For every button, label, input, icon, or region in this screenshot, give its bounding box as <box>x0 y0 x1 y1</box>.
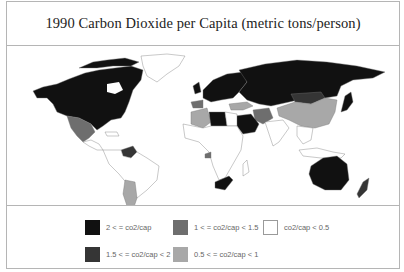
legend-item-0-5-to-1: 0.5 < = co2/cap < 1 <box>173 247 258 262</box>
region-north-america <box>33 66 143 130</box>
region-central-america <box>83 140 103 150</box>
region-caribbean <box>105 132 119 136</box>
region-new-zealand <box>357 178 369 198</box>
region-japan <box>341 92 353 112</box>
region-uk <box>193 82 201 94</box>
region-gabon <box>205 152 211 158</box>
legend-label: 0.5 < = co2/cap < 1 <box>194 250 258 259</box>
chart-frame: 1990 Carbon Dioxide per Capita (metric t… <box>6 1 400 269</box>
region-egypt <box>225 112 237 126</box>
world-map <box>7 46 399 206</box>
region-libya <box>209 112 227 126</box>
legend-swatch <box>173 220 188 235</box>
legend-item-2-plus: 2 < = co2/cap <box>85 220 151 235</box>
region-southeast-asia <box>297 126 313 144</box>
legend-item-under-0-5: co2/cap < 0.5 <box>263 220 329 235</box>
legend-label: co2/cap < 0.5 <box>284 223 329 232</box>
region-iberia <box>191 100 203 108</box>
legend-label: 2 < = co2/cap <box>106 223 151 232</box>
region-europe <box>203 72 247 102</box>
legend-item-1-5-to-2: 1.5 < = co2/cap < 2 <box>85 247 170 262</box>
region-algeria <box>191 108 211 128</box>
region-australia <box>309 156 349 190</box>
legend-swatch <box>85 247 100 262</box>
region-turkey <box>229 102 253 110</box>
legend-swatch <box>85 220 100 235</box>
legend-label: 1 < = co2/cap < 1.5 <box>194 223 258 232</box>
world-map-graphic <box>7 46 399 205</box>
region-indonesia <box>299 148 345 158</box>
legend-swatch <box>263 220 278 235</box>
legend-swatch <box>173 247 188 262</box>
legend-item-1-to-1-5: 1 < = co2/cap < 1.5 <box>173 220 258 235</box>
region-greenland <box>141 54 185 82</box>
region-africa <box>183 124 243 180</box>
chart-title: 1990 Carbon Dioxide per Capita (metric t… <box>45 15 360 32</box>
legend-label: 1.5 < = co2/cap < 2 <box>106 250 170 259</box>
region-argentina <box>123 180 137 205</box>
region-india <box>265 120 289 146</box>
title-panel: 1990 Carbon Dioxide per Capita (metric t… <box>7 2 399 46</box>
region-south-africa <box>215 176 233 190</box>
region-madagascar <box>243 160 249 176</box>
legend: 2 < = co2/cap 1 < = co2/cap < 1.5 co2/ca… <box>7 206 399 269</box>
